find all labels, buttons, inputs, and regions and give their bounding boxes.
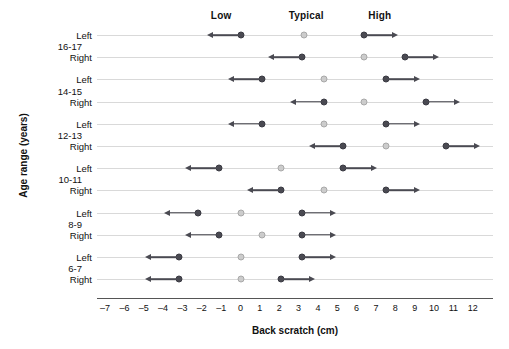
low-arrow-line xyxy=(170,212,198,214)
x-tick-label: 7 xyxy=(373,303,378,313)
gridline xyxy=(97,124,493,125)
high-arrow-line xyxy=(364,34,392,36)
high-arrow-line xyxy=(446,145,474,147)
typical-marker-dot xyxy=(237,209,244,216)
x-tick-label: 2 xyxy=(277,303,282,313)
low-arrow-line xyxy=(151,278,179,280)
gridline xyxy=(97,235,493,236)
low-arrowhead-left-icon xyxy=(185,232,191,238)
typical-marker-dot xyxy=(258,231,265,238)
high-arrowhead-right-icon xyxy=(330,210,336,216)
column-header-low: Low xyxy=(211,10,232,21)
low-arrow-line xyxy=(296,101,324,103)
row-label-12-13-left: Left xyxy=(46,118,92,129)
gridline xyxy=(97,35,493,36)
high-arrow-line xyxy=(386,123,414,125)
typical-marker-dot xyxy=(320,76,327,83)
x-tick-label: 8 xyxy=(393,303,398,313)
x-tick-label: –5 xyxy=(139,303,149,313)
typical-marker-dot xyxy=(361,98,368,105)
low-arrowhead-left-icon xyxy=(309,143,315,149)
gridline xyxy=(97,168,493,169)
row-label-16-17-right: Right xyxy=(46,52,92,63)
row-label-6-7-right: Right xyxy=(46,274,92,285)
low-arrowhead-left-icon xyxy=(207,32,213,38)
high-arrow-line xyxy=(302,256,330,258)
low-arrow-line xyxy=(191,234,219,236)
high-arrow-line xyxy=(405,56,433,58)
x-tick-label: 4 xyxy=(315,303,320,313)
low-arrowhead-left-icon xyxy=(164,210,170,216)
age-group-label-10-11: 10-11 xyxy=(22,174,82,185)
low-arrow-line xyxy=(274,56,302,58)
x-tick-label: –1 xyxy=(216,303,226,313)
high-arrowhead-right-icon xyxy=(392,32,398,38)
high-arrow-line xyxy=(386,190,414,192)
row-label-10-11-right: Right xyxy=(46,185,92,196)
high-arrow-line xyxy=(281,278,309,280)
y-axis-title: Age range (years) xyxy=(18,101,29,211)
low-arrow-line xyxy=(315,145,343,147)
row-label-14-15-left: Left xyxy=(46,74,92,85)
row-label-10-11-left: Left xyxy=(46,163,92,174)
low-arrow-line xyxy=(151,256,179,258)
low-arrow-line xyxy=(234,123,262,125)
low-arrowhead-left-icon xyxy=(228,76,234,82)
x-tick-label: 12 xyxy=(468,303,478,313)
high-arrowhead-right-icon xyxy=(414,187,420,193)
high-arrowhead-right-icon xyxy=(371,165,377,171)
age-group-label-14-15: 14-15 xyxy=(22,85,82,96)
high-arrow-line xyxy=(343,167,371,169)
x-tick-label: 11 xyxy=(449,303,458,313)
typical-marker-dot xyxy=(301,32,308,39)
x-axis-line xyxy=(97,298,493,299)
x-tick-label: –2 xyxy=(197,303,207,313)
high-arrow-line xyxy=(302,212,330,214)
column-header-typical: Typical xyxy=(289,10,324,21)
typical-marker-dot xyxy=(320,187,327,194)
low-arrow-line xyxy=(191,167,219,169)
row-label-16-17-left: Left xyxy=(46,30,92,41)
age-group-label-16-17: 16-17 xyxy=(22,41,82,52)
low-arrowhead-left-icon xyxy=(247,187,253,193)
typical-marker-dot xyxy=(320,120,327,127)
typical-marker-dot xyxy=(237,276,244,283)
typical-marker-dot xyxy=(278,165,285,172)
low-arrowhead-left-icon xyxy=(145,276,151,282)
x-tick-label: 3 xyxy=(296,303,301,313)
typical-marker-dot xyxy=(361,54,368,61)
age-group-label-12-13: 12-13 xyxy=(22,129,82,140)
high-arrowhead-right-icon xyxy=(330,254,336,260)
age-group-label-6-7: 6-7 xyxy=(22,263,82,274)
gridline xyxy=(97,146,493,147)
high-arrowhead-right-icon xyxy=(474,143,480,149)
x-tick-label: 9 xyxy=(412,303,417,313)
gridline xyxy=(97,79,493,80)
row-label-14-15-right: Right xyxy=(46,96,92,107)
typical-marker-dot xyxy=(237,254,244,261)
high-arrowhead-right-icon xyxy=(454,99,460,105)
x-tick-label: –6 xyxy=(119,303,129,313)
back-scratch-chart: Age range (years) LowTypicalHigh LeftRig… xyxy=(0,0,509,349)
high-arrowhead-right-icon xyxy=(414,76,420,82)
column-header-high: High xyxy=(368,10,391,21)
row-label-6-7-left: Left xyxy=(46,252,92,263)
x-tick-label: 1 xyxy=(257,303,262,313)
low-arrow-line xyxy=(253,190,281,192)
row-label-8-9-right: Right xyxy=(46,229,92,240)
row-label-12-13-right: Right xyxy=(46,141,92,152)
x-tick-label: –3 xyxy=(177,303,187,313)
high-arrowhead-right-icon xyxy=(309,276,315,282)
high-arrowhead-right-icon xyxy=(330,232,336,238)
typical-marker-dot xyxy=(382,143,389,150)
x-tick-label: 5 xyxy=(335,303,340,313)
low-arrowhead-left-icon xyxy=(290,99,296,105)
x-axis-title: Back scratch (cm) xyxy=(252,325,338,336)
x-tick-label: 6 xyxy=(354,303,359,313)
high-arrowhead-right-icon xyxy=(414,121,420,127)
row-label-8-9-left: Left xyxy=(46,207,92,218)
gridline xyxy=(97,190,493,191)
high-arrowhead-right-icon xyxy=(433,54,439,60)
gridline xyxy=(97,213,493,214)
low-arrowhead-left-icon xyxy=(228,121,234,127)
